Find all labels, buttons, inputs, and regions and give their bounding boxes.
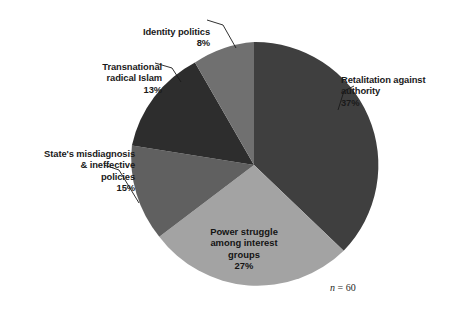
pie-label-retaliation-text: Retalitation against authority [341, 74, 425, 97]
pie-label-identity-politics-text: Identity politics [143, 26, 210, 37]
pie-label-retaliation-percent: 37% [341, 97, 453, 109]
pie-label-power-struggle-text: Power struggle among interest groups [210, 226, 278, 260]
pie-label-power-struggle-percent: 27% [235, 260, 254, 271]
pie-chart: Identity politics 8% Transnational radic… [0, 0, 455, 315]
pie-label-identity-politics-percent: 8% [100, 37, 210, 49]
sample-size-note: n = 60 [330, 282, 356, 293]
pie-label-transnational-radical-islam: Transnational radical Islam 13% [52, 49, 162, 107]
pie-label-transnational-radical-islam-text: Transnational radical Islam [102, 61, 162, 84]
pie-label-state-misdiagnosis: State's misdiagnosis & ineffective polic… [2, 136, 135, 206]
pie-label-retaliation: Retalitation against authority 37% [341, 62, 453, 120]
pie-label-power-struggle: Power struggle among interest groups 27% [184, 214, 304, 272]
sample-size-value: = 60 [338, 282, 356, 293]
pie-label-state-misdiagnosis-text: State's misdiagnosis & ineffective polic… [44, 148, 135, 182]
pie-label-transnational-radical-islam-percent: 13% [52, 84, 162, 96]
leader-line-identity-politics [207, 20, 236, 48]
sample-size-symbol: n [330, 282, 335, 293]
pie-label-state-misdiagnosis-percent: 15% [2, 182, 135, 194]
